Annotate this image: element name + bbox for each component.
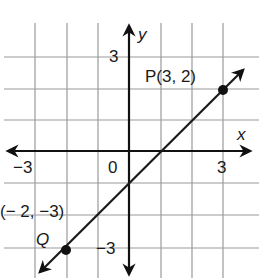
y-axis-label: y [137,25,148,44]
point-q-label: Q [36,230,49,249]
x-tick-neg: −3 [13,158,32,177]
coordinate-plane-diagram: y x 3 −3 −3 3 0 P(3, 2) (− 2, −3) Q [0,0,259,278]
x-axis-label: x [236,125,246,144]
point-q [61,245,71,255]
point-p [218,85,228,95]
y-tick-pos: 3 [109,47,118,66]
line-pq [40,70,243,272]
graph-canvas: y x 3 −3 −3 3 0 P(3, 2) (− 2, −3) Q [0,0,259,278]
point-p-label: P(3, 2) [145,67,196,86]
x-tick-pos: 3 [217,158,226,177]
point-q-coords-label: (− 2, −3) [0,202,64,221]
origin-label: 0 [108,158,117,177]
y-tick-neg: −3 [96,239,115,258]
